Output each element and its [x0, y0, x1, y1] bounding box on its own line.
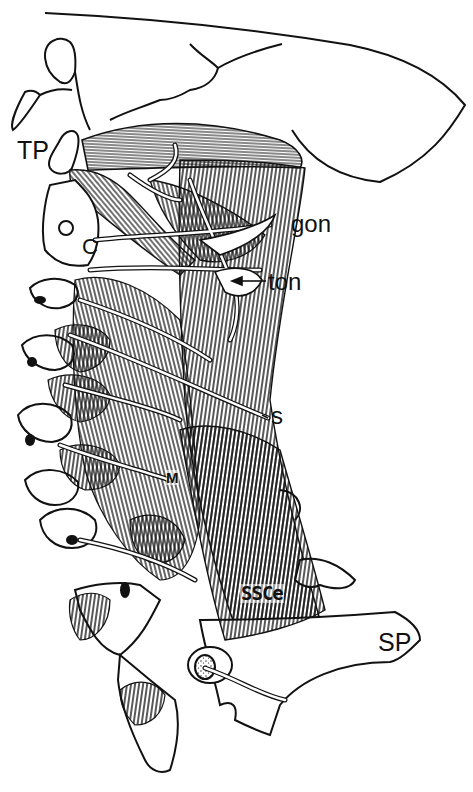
- label-sp: SP: [378, 630, 411, 655]
- label-tp: TP: [17, 138, 49, 163]
- label-m: M: [166, 470, 179, 485]
- anatomical-illustration: [0, 0, 473, 792]
- label-c: C: [82, 236, 98, 258]
- label-s: s: [271, 404, 283, 428]
- label-gon: gon: [291, 212, 331, 236]
- label-ton: ton: [268, 270, 301, 294]
- semispinalis-cervicis: [180, 426, 325, 640]
- label-ssce: SSCe: [240, 584, 284, 603]
- transverse-process: [49, 131, 78, 174]
